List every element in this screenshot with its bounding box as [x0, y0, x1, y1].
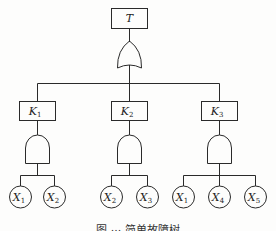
figure-caption: 图 ··· 简单故障树	[0, 221, 276, 231]
top-event-T: T	[112, 9, 148, 29]
fault-tree-diagram: T K1 K2 K3 X1 X2	[0, 0, 276, 231]
basic-event-X4: X4	[209, 186, 231, 208]
intermediate-event-K1: K1	[20, 102, 56, 121]
basic-event-X2-b: X2	[101, 186, 123, 208]
basic-event-X2-a: X2	[44, 186, 66, 208]
and-gate-icon	[118, 135, 142, 164]
basic-event-X5: X5	[245, 186, 267, 208]
intermediate-event-K3: K3	[202, 102, 238, 121]
or-gate-icon	[117, 41, 141, 68]
basic-event-X1-a: X1	[10, 186, 32, 208]
and-gate-icon	[208, 135, 232, 164]
and-gate-icon	[26, 135, 50, 164]
basic-event-X3: X3	[137, 186, 159, 208]
intermediate-event-K2: K2	[112, 102, 148, 121]
basic-event-X1-b: X1	[173, 186, 195, 208]
